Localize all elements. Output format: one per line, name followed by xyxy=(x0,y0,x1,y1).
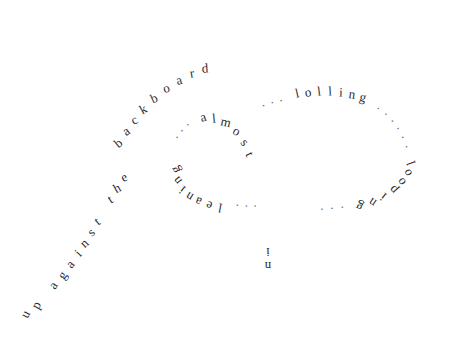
poem-glyph: g xyxy=(358,90,368,104)
poem-glyph: . xyxy=(328,205,335,218)
poem-glyph: n xyxy=(366,196,379,210)
poem-glyph: . xyxy=(395,120,407,131)
poem-glyph: i xyxy=(377,191,388,203)
poem-glyph: . xyxy=(258,95,266,108)
poem-glyph: t xyxy=(243,150,256,159)
poem-glyph: n xyxy=(77,236,91,250)
poem-glyph: . xyxy=(383,105,393,118)
poem-glyph: . xyxy=(403,141,416,150)
poem-glyph: a xyxy=(120,124,132,138)
poem-glyph: b xyxy=(111,136,124,150)
poem-glyph: p xyxy=(386,183,400,197)
poem-glyph: g xyxy=(55,268,69,281)
poem-glyph: d xyxy=(201,61,208,74)
poem-glyph: o xyxy=(161,81,171,95)
poem-glyph: l xyxy=(404,159,417,167)
poem-glyph: k xyxy=(137,102,149,117)
poem-glyph: a xyxy=(63,258,77,271)
poem-glyph: n xyxy=(265,260,272,273)
poem-glyph: i xyxy=(72,247,84,259)
poem-glyph: . xyxy=(173,122,185,133)
poem-glyph: c xyxy=(128,113,140,127)
poem-glyph: . xyxy=(235,202,240,215)
poem-glyph: t xyxy=(105,193,115,206)
poem-glyph: i xyxy=(266,246,270,259)
poem-glyph: r xyxy=(189,66,195,80)
poem-glyph: n xyxy=(348,87,356,101)
poem-glyph: u xyxy=(18,308,33,320)
poem-glyph: . xyxy=(400,130,413,140)
poem-glyph: t xyxy=(92,215,103,227)
poem-glyph: g xyxy=(353,200,365,215)
poem-glyph: l xyxy=(294,86,300,99)
poem-glyph: . xyxy=(267,92,275,105)
poem-glyph: . xyxy=(376,98,385,111)
poem-glyph: a xyxy=(46,279,60,291)
poem-glyph: s xyxy=(85,225,97,238)
poem-glyph: l xyxy=(328,84,332,97)
poem-glyph: o xyxy=(304,85,313,99)
poem-glyph: e xyxy=(204,199,213,213)
poem-glyph: a xyxy=(175,73,184,87)
poem-glyph: e xyxy=(119,170,130,184)
poem-glyph: . xyxy=(390,112,401,124)
poem-glyph: . xyxy=(337,204,345,217)
poem-glyph: p xyxy=(29,299,44,311)
poem-glyph: b xyxy=(148,91,159,106)
poem-glyph: m xyxy=(220,115,233,130)
poem-glyph: i xyxy=(339,85,343,98)
poem-glyph: . xyxy=(179,116,190,128)
poem-glyph: a xyxy=(193,195,203,209)
poem-glyph: . xyxy=(276,90,283,103)
poem-glyph: . xyxy=(244,203,248,216)
poem-glyph: . xyxy=(168,130,180,141)
poem-glyph: h xyxy=(111,181,123,196)
concrete-poem-canvas: upagainstthebackboard ...lolling...... l… xyxy=(0,0,454,344)
poem-glyph: s xyxy=(238,136,251,148)
poem-glyph: l xyxy=(316,84,321,97)
poem-glyph: . xyxy=(253,203,257,216)
poem-glyph: l xyxy=(212,111,217,124)
poem-glyph: a xyxy=(198,110,207,124)
poem-glyph: . xyxy=(318,206,325,219)
poem-glyph: l xyxy=(217,201,223,214)
poem-glyph: o xyxy=(231,124,243,138)
